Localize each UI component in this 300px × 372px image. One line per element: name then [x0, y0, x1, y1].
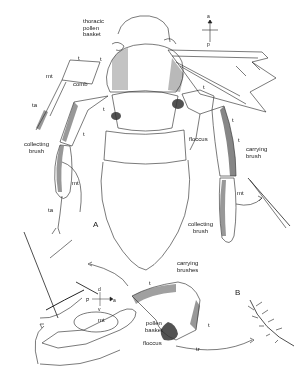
- compass-bottom-p: P: [86, 297, 89, 304]
- label-ta-upper: ta: [32, 102, 37, 109]
- label-comb: comb: [73, 81, 88, 88]
- bee-pollen-apparatus-illustration: [0, 0, 300, 372]
- label-mt-lower: mt: [72, 180, 79, 187]
- left-hindleg: [60, 96, 108, 146]
- arrow-left: [50, 240, 72, 258]
- label-panel-a: A: [93, 222, 98, 229]
- label-floccus-a: floccus: [189, 136, 208, 143]
- label-t-1: t: [78, 55, 80, 62]
- compass-bottom-v: v: [98, 306, 101, 313]
- right-leg: [182, 90, 214, 114]
- label-mt-right: mt: [237, 190, 244, 197]
- label-mt-inset: mt: [98, 317, 105, 324]
- label-t-b2: t: [208, 322, 210, 329]
- abdomen-segment-2: [104, 130, 186, 164]
- label-t-7: t: [238, 137, 240, 144]
- label-thoracic-pollen-basket: thoracic pollen basket: [83, 18, 104, 38]
- label-t-2: t: [100, 56, 102, 63]
- label-t-4: t: [203, 84, 205, 91]
- label-tr: tr: [196, 346, 200, 353]
- label-t-5: t: [232, 117, 234, 124]
- label-carrying-brush: carrying brush: [246, 146, 267, 159]
- compass-bottom-d: d: [98, 286, 101, 293]
- compass-top-p: p: [207, 41, 210, 48]
- label-t-3: t: [103, 106, 105, 113]
- label-collecting-brush-left: collecting brush: [24, 141, 49, 154]
- compass-bottom-icon: [92, 292, 113, 306]
- label-carrying-brushes: carrying brushes: [177, 260, 198, 273]
- compass-top-icon: [202, 20, 218, 42]
- inset-leg: [42, 309, 136, 348]
- label-panel-b: B: [235, 290, 240, 297]
- abdomen-segment-1: [112, 91, 178, 131]
- label-floccus-b: floccus: [143, 340, 162, 347]
- label-t-b1: t: [149, 280, 151, 287]
- label-mt-upper: mt: [46, 73, 53, 80]
- abdomen-outline: [101, 160, 190, 270]
- head-outline: [118, 16, 170, 42]
- label-pollen-basket: pollen basket: [145, 320, 163, 333]
- hair-right: [248, 178, 290, 226]
- compass-top-a: a: [207, 13, 210, 20]
- compass-bottom-a: a: [113, 297, 116, 304]
- feather-hair: [250, 300, 294, 346]
- label-ta-lower: ta: [48, 207, 53, 214]
- label-collecting-brush-right: collecting brush: [188, 221, 213, 234]
- label-t-6: t: [83, 131, 85, 138]
- wing-outline: [168, 50, 276, 112]
